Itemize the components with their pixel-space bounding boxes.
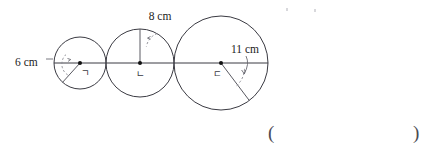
circle-ga-radius-line <box>63 63 80 82</box>
circles-diagram: 6 cm 8 cm 11 cm ㄱ ㄴ ㄷ <box>0 0 433 153</box>
answer-close-paren: ) <box>413 123 419 142</box>
circle-da-leader-line <box>244 56 248 74</box>
circle-ga-measure-label: 6 cm <box>15 56 38 68</box>
circle-da-center-label: ㄷ <box>213 69 222 79</box>
scan-speck <box>314 9 316 12</box>
circle-ga-center-label: ㄱ <box>81 68 90 78</box>
circle-na-center-label: ㄴ <box>136 69 145 79</box>
circle-da-center-dot <box>219 61 223 65</box>
circle-ga-leader-arrow <box>68 59 71 62</box>
geometry-figure: 6 cm 8 cm 11 cm ㄱ ㄴ ㄷ ( ) <box>0 0 433 153</box>
answer-open-paren: ( <box>268 123 274 142</box>
circle-na-radius-arc <box>146 34 157 47</box>
circle-ga-radius-arc <box>62 55 69 76</box>
circle-da-leader-arrow <box>242 70 246 74</box>
circle-da-radius-line <box>221 63 249 101</box>
circle-na-measure-label: 8 cm <box>149 10 172 22</box>
circle-da-measure-label: 11 cm <box>231 43 259 55</box>
circle-na-center-dot <box>138 61 142 65</box>
scan-speck <box>286 8 288 11</box>
circle-na-leader-arrow <box>148 37 151 40</box>
circle-ga-center-dot <box>78 61 82 65</box>
